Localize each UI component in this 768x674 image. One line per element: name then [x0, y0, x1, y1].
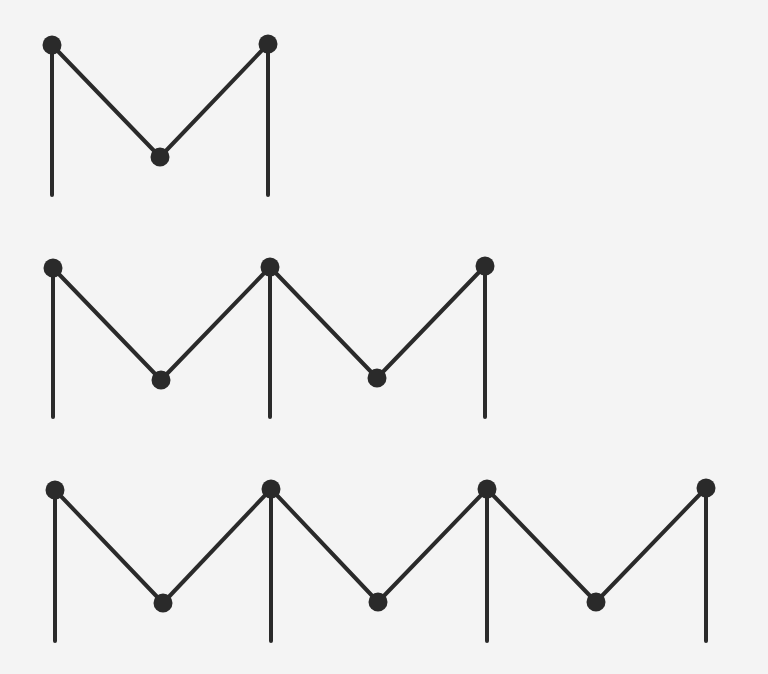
peak-node: [478, 480, 497, 499]
valley-node: [154, 594, 173, 613]
peak-node: [44, 259, 63, 278]
peak-node: [697, 479, 716, 498]
peak-node: [261, 258, 280, 277]
valley-node: [369, 593, 388, 612]
peak-node: [43, 36, 62, 55]
valley-node: [587, 593, 606, 612]
valley-node: [368, 369, 387, 388]
zigzag-diagram: [0, 0, 768, 674]
peak-node: [476, 257, 495, 276]
background: [0, 0, 768, 674]
peak-node: [259, 35, 278, 54]
peak-node: [262, 480, 281, 499]
peak-node: [46, 481, 65, 500]
valley-node: [152, 371, 171, 390]
valley-node: [151, 148, 170, 167]
